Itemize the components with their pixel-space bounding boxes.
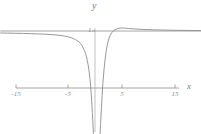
y-axis-label: y [92, 0, 96, 11]
curve-path [1, 28, 201, 134]
x-tick-label: 5 [110, 90, 134, 98]
x-tick-label: -5 [56, 90, 80, 98]
x-tick-label: 15 [163, 90, 187, 98]
x-tick-label: -15 [4, 90, 28, 98]
x-axis-label: x [187, 81, 191, 91]
tick-marks-group [16, 31, 175, 88]
y-tick-label-1: 1 [88, 26, 92, 34]
plot-canvas [0, 0, 201, 134]
math-function-plot: x y 1 -15-5515 [0, 0, 201, 134]
axes-group [16, 28, 179, 132]
curve-group [1, 28, 201, 134]
